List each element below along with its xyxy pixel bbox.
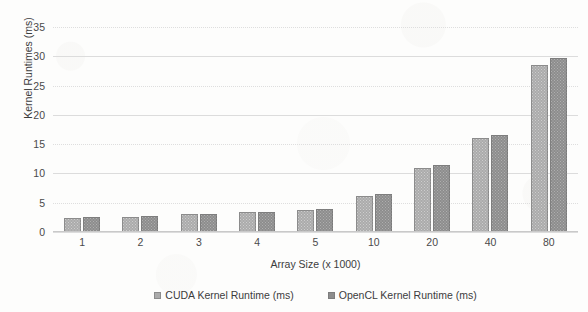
plot-area (53, 27, 578, 232)
x-axis-tick-label: 4 (254, 236, 260, 248)
y-axis-tick-labels: 05101520253035 (0, 27, 53, 232)
y-axis-tick-label: 15 (33, 138, 45, 150)
y-axis-tick-label: 20 (33, 109, 45, 121)
x-axis-tick-label: 3 (196, 236, 202, 248)
bar (297, 210, 314, 232)
x-axis-tick-label: 10 (368, 236, 380, 248)
bar (258, 212, 275, 233)
bar-chart-figure: Kernel Runtimes (ms) 05101520253035 1234… (0, 0, 588, 312)
legend-label: CUDA Kernel Runtime (ms) (165, 289, 293, 301)
bar (141, 216, 158, 232)
legend-label: OpenCL Kernel Runtime (ms) (339, 289, 477, 301)
x-axis-line (53, 231, 578, 232)
y-axis-tick-label: 10 (33, 167, 45, 179)
y-axis-tick-label: 35 (33, 21, 45, 33)
x-axis-tick-label: 80 (543, 236, 555, 248)
x-axis-tick-label: 1 (79, 236, 85, 248)
x-axis-tick-label: 2 (138, 236, 144, 248)
bar (433, 165, 450, 232)
legend-item[interactable]: CUDA Kernel Runtime (ms) (154, 289, 293, 301)
y-axis-tick-label: 25 (33, 80, 45, 92)
bar (239, 212, 256, 232)
bars-layer (53, 27, 578, 232)
legend-swatch-icon (154, 292, 161, 299)
bar (550, 58, 567, 232)
bar-group (111, 27, 169, 232)
bar (83, 217, 100, 232)
bar (491, 135, 508, 232)
x-axis-tick-label: 20 (426, 236, 438, 248)
bar-group (228, 27, 286, 232)
bar-group (520, 27, 578, 232)
y-axis-tick-label: 0 (39, 226, 45, 238)
y-axis-tick-label: 30 (33, 50, 45, 62)
x-axis-tick-label: 40 (485, 236, 497, 248)
bar-group (170, 27, 228, 232)
bar (64, 218, 81, 232)
chart-legend: CUDA Kernel Runtime (ms)OpenCL Kernel Ru… (53, 289, 578, 301)
bar-group (403, 27, 461, 232)
x-axis-tick-label: 5 (313, 236, 319, 248)
bar-group (461, 27, 519, 232)
bar (200, 214, 217, 232)
legend-swatch-icon (328, 292, 335, 299)
bar (414, 168, 431, 232)
bar-group (345, 27, 403, 232)
bar (316, 209, 333, 232)
y-axis-tick-label: 5 (39, 197, 45, 209)
bar (181, 214, 198, 232)
bar (356, 196, 373, 232)
bar-group (53, 27, 111, 232)
bar-group (286, 27, 344, 232)
x-axis-title: Array Size (x 1000) (53, 258, 578, 270)
x-axis-tick-labels: 1234510204080 (53, 236, 578, 252)
gridline (53, 232, 578, 233)
bar (375, 194, 392, 232)
bar (531, 65, 548, 232)
bar (472, 138, 489, 232)
bar (122, 217, 139, 232)
legend-item[interactable]: OpenCL Kernel Runtime (ms) (328, 289, 477, 301)
